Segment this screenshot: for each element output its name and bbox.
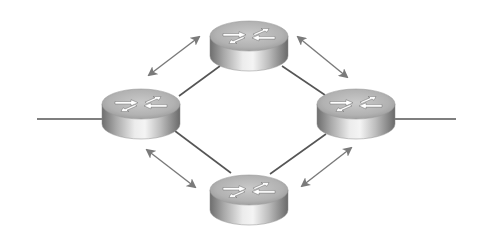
- link-top-left: [179, 66, 220, 96]
- network-diagram: Four routers in a ring topology with bid…: [0, 0, 486, 240]
- router-top-face: [210, 21, 288, 51]
- link-right-bottom: [270, 134, 326, 174]
- double-arrow-bottom-right-icon: [302, 148, 351, 186]
- router-right-router-icon[interactable]: [317, 89, 395, 139]
- diagram-canvas: [0, 0, 486, 240]
- double-arrow-top-left-icon: [149, 37, 199, 75]
- routers-layer: [102, 21, 395, 225]
- router-top-face: [210, 175, 288, 205]
- double-arrow-top-right-icon: [298, 37, 347, 77]
- link-left-bottom: [175, 131, 231, 173]
- double-arrow-bottom-left-icon: [147, 150, 195, 187]
- link-top-right: [282, 66, 325, 95]
- router-top-router-icon[interactable]: [210, 21, 288, 71]
- router-top-face: [317, 89, 395, 119]
- router-bottom-router-icon[interactable]: [210, 175, 288, 225]
- router-top-face: [102, 89, 180, 119]
- router-left-router-icon[interactable]: [102, 89, 180, 139]
- router-links-layer: [175, 66, 326, 174]
